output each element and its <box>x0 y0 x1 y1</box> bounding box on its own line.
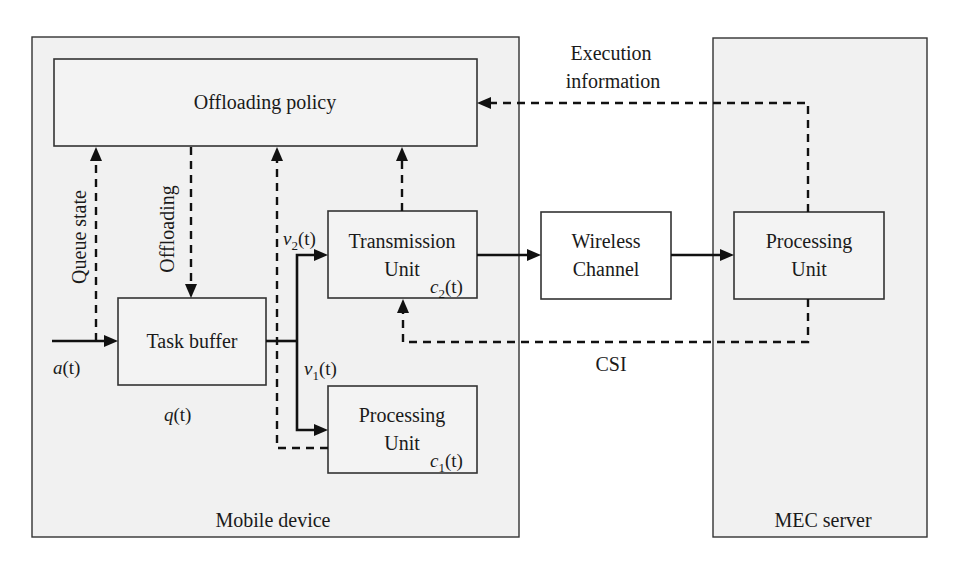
offloading-decision-label: Offloading <box>156 185 179 272</box>
mec-processing-unit-block <box>734 212 884 299</box>
local-processing-unit-label-line1: Processing <box>359 404 446 427</box>
arrival-variable: a(t) <box>53 357 80 379</box>
mec-server-label: MEC server <box>774 509 872 531</box>
wireless-channel-block <box>541 212 671 299</box>
wireless-channel-label-line2: Channel <box>573 258 640 280</box>
mec-processing-unit-label-line1: Processing <box>766 230 853 253</box>
transmission-unit-label-line1: Transmission <box>348 230 455 252</box>
execution-information-label-line1: Execution <box>570 42 651 64</box>
local-processing-unit-label-line2: Unit <box>384 432 420 454</box>
mec-processing-unit-label-line2: Unit <box>791 258 827 280</box>
task-buffer-label: Task buffer <box>147 330 238 352</box>
execution-information-label-line2: information <box>566 70 660 92</box>
mobile-device-label: Mobile device <box>216 509 331 531</box>
queue-state-label: Queue state <box>68 190 90 284</box>
wireless-channel-label-line1: Wireless <box>571 230 640 252</box>
queue-variable: q(t) <box>164 404 191 426</box>
csi-label: CSI <box>595 353 626 375</box>
transmission-unit-label-line2: Unit <box>384 258 420 280</box>
mec-offloading-diagram: Offloading policy Task buffer Transmissi… <box>0 0 958 563</box>
offloading-policy-label: Offloading policy <box>194 91 336 114</box>
